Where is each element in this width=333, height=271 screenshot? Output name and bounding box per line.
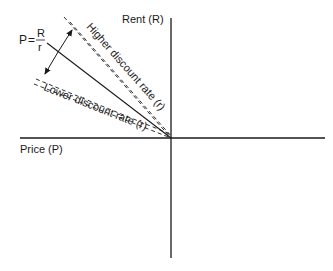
formula-equals: =	[28, 33, 35, 47]
formula-denominator: r	[38, 41, 42, 53]
x-axis-label: Price (P)	[20, 143, 63, 155]
y-axis-label: Rent (R)	[122, 13, 164, 25]
double-arrow-icon	[58, 30, 72, 52]
lower-discount-rate-label: Lower discount rate (r)	[42, 81, 149, 132]
higher-discount-rate-label: Higher discount rate (r)	[85, 20, 169, 112]
discount-rate-diagram: P = R r Rent (R) Price (P) Higher discou…	[0, 0, 333, 271]
formula-lhs: P	[19, 33, 27, 47]
formula-numerator: R	[37, 27, 45, 39]
double-arrow-icon-lower	[45, 52, 58, 74]
